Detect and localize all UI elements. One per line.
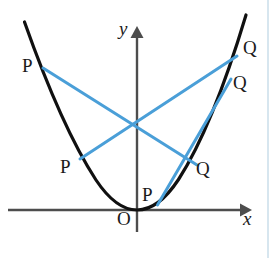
chord-p1-q3: [43, 68, 197, 165]
parabola-diagram: [0, 0, 280, 258]
label-q-3: Q: [196, 159, 210, 178]
y-axis-arrow: [131, 26, 144, 38]
label-q-1: Q: [243, 38, 257, 57]
label-x-axis: x: [243, 209, 251, 228]
label-p-2: P: [60, 157, 71, 176]
figure-canvas: P P P Q Q Q O x y: [0, 0, 280, 258]
label-p-3: P: [142, 185, 153, 204]
label-origin: O: [117, 209, 131, 228]
label-y-axis: y: [119, 19, 127, 38]
label-p-1: P: [22, 56, 33, 75]
label-q-2: Q: [233, 73, 247, 92]
chord-p3-q2: [158, 79, 232, 205]
